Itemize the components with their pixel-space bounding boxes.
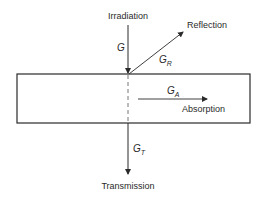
radiation-diagram: Irradiation G Reflection GR GA Absorptio…: [0, 0, 263, 198]
absorption-label: Absorption: [182, 104, 225, 114]
incident-symbol: G: [117, 42, 125, 53]
medium-slab: [17, 74, 250, 123]
reflection-label: Reflection: [187, 20, 227, 30]
transmitted-symbol: GT: [133, 143, 146, 156]
transmission-label: Transmission: [101, 181, 154, 191]
absorbed-symbol: GA: [167, 85, 180, 98]
irradiation-label: Irradiation: [108, 11, 148, 21]
reflected-symbol: GR: [159, 54, 172, 67]
reflection-arrow: [129, 32, 183, 74]
